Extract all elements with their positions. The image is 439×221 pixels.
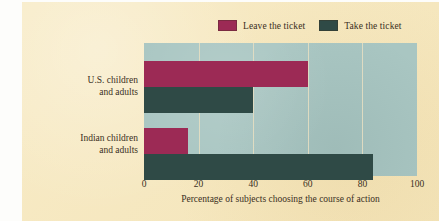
legend-label-take: Take the ticket — [344, 21, 401, 31]
legend-swatch-leave-icon — [218, 20, 237, 31]
figure-card: Leave the ticket Take the ticket U.S. ch… — [22, 2, 439, 221]
legend-entry-leave: Leave the ticket — [218, 20, 305, 31]
category-label-india-line2: and adults — [30, 144, 138, 156]
xtick-40: 40 — [248, 179, 258, 189]
xtick-60: 60 — [303, 179, 313, 189]
legend-entry-take: Take the ticket — [319, 20, 401, 31]
xtick-100: 100 — [410, 179, 424, 189]
category-label-india-text: Indian children and adults — [30, 132, 138, 156]
chart-screenshot: Leave the ticket Take the ticket U.S. ch… — [0, 0, 439, 221]
xtick-0: 0 — [142, 179, 147, 189]
bar-india-take — [144, 154, 373, 180]
legend-swatch-take-icon — [319, 20, 338, 31]
x-axis-title: Percentage of subjects choosing the cour… — [144, 194, 417, 204]
bar-india-leave — [144, 128, 188, 154]
bar-us-leave — [144, 61, 308, 87]
chart-legend: Leave the ticket Take the ticket — [218, 20, 402, 31]
bar-us-take — [144, 87, 253, 113]
category-label-us-line1: U.S. children — [30, 74, 138, 86]
category-label-us-line2: and adults — [30, 86, 138, 98]
category-label-us-text: U.S. children and adults — [30, 74, 138, 98]
category-label-india-line1: Indian children — [30, 132, 138, 144]
xtick-20: 20 — [194, 179, 204, 189]
plot-area — [144, 43, 417, 176]
xtick-80: 80 — [358, 179, 368, 189]
legend-label-leave: Leave the ticket — [243, 21, 305, 31]
